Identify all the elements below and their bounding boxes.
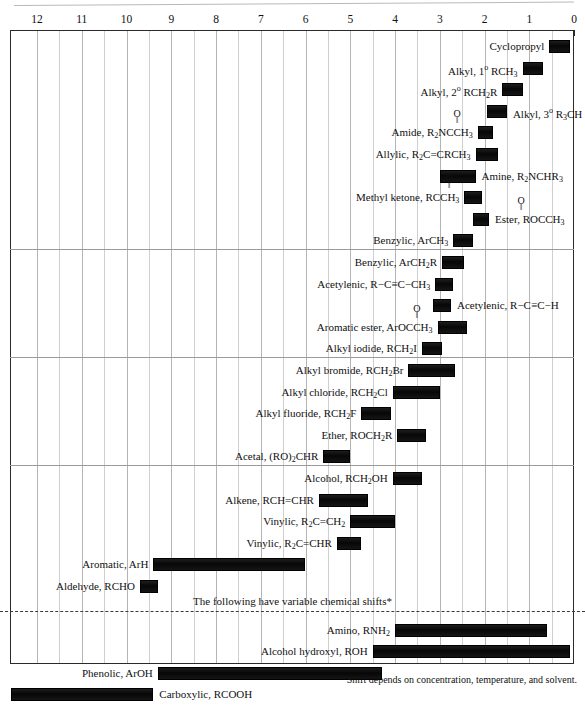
- shift-range-label: Ether, ROCH2R: [321, 427, 392, 447]
- shift-range-label: Alkyl fluoride, RCH2F: [256, 405, 357, 425]
- chart-row: Amide, R2NCCH3O‖: [0, 122, 585, 144]
- shift-range-label: Alkene, RCH=CHR: [225, 492, 314, 508]
- chart-row: Alkyl chloride, RCH2Cl: [0, 382, 585, 404]
- shift-range-bar: [153, 558, 305, 571]
- chart-row: Vinylic, R2C=CHR: [0, 533, 585, 555]
- variable-shift-note: The following have variable chemical shi…: [0, 595, 585, 607]
- chart-row: Alcohol, RCH2OH: [0, 468, 585, 490]
- shift-range-bar: [487, 105, 507, 118]
- section-divider: [10, 357, 574, 358]
- shift-range-label: Carboxylic, RCOOH: [159, 686, 252, 702]
- axis-tick-label-7: 7: [258, 12, 264, 26]
- shift-range-label: Phenolic, ArOH: [82, 665, 153, 681]
- chart-row: Benzylic, ArCH2R: [0, 252, 585, 274]
- shift-range-label: Benzylic, ArCH2R: [355, 254, 437, 274]
- axis-tick-label-4: 4: [392, 12, 398, 26]
- shift-range-bar: [337, 537, 362, 550]
- shift-range-label: Vinylic, R2C=CH2: [263, 513, 345, 533]
- shift-range-bar: [140, 580, 158, 593]
- shift-range-bar: [395, 624, 547, 637]
- chart-row: Alkene, RCH=CHR: [0, 490, 585, 512]
- shift-range-bar: [453, 234, 473, 247]
- shift-range-bar: [350, 515, 395, 528]
- shift-range-label: Ester, ROCCH3: [495, 211, 565, 231]
- chart-row: Allylic, R2C=CRCH3: [0, 144, 585, 166]
- shift-range-bar: [464, 191, 482, 204]
- chart-row: Aromatic ester, ArOCCH3O‖: [0, 317, 585, 339]
- axis-tick-label-0: 0: [571, 12, 577, 26]
- section-divider: [10, 465, 574, 466]
- axis-tick-label-10: 10: [121, 12, 133, 26]
- chart-row: Carboxylic, RCOOH: [0, 684, 585, 705]
- axis-tick-label-1: 1: [526, 12, 532, 26]
- chart-row: Alkyl, 2o RCH2R: [0, 79, 585, 101]
- shift-range-bar: [393, 386, 440, 399]
- shift-range-bar: [373, 645, 570, 658]
- section-divider: [10, 249, 574, 250]
- chart-row: Aromatic, ArH: [0, 554, 585, 576]
- chart-row: Alkyl fluoride, RCH2F: [0, 403, 585, 425]
- shift-range-bar: [397, 429, 426, 442]
- shift-range-bar: [393, 472, 422, 485]
- shift-range-label: Vinylic, R2C=CHR: [246, 535, 331, 555]
- ppm-axis-labels: 1211109876543210: [0, 12, 585, 28]
- carbonyl-oxygen-glyph: O‖: [446, 174, 453, 189]
- chart-row: Amino, RNH2: [0, 620, 585, 642]
- shift-range-bar: [442, 256, 464, 269]
- carbonyl-oxygen-glyph: O‖: [454, 109, 461, 124]
- shift-range-label: Methyl ketone, RCCH3: [356, 189, 459, 209]
- chart-row: Acetylenic, R−C≡C−CH3: [0, 274, 585, 296]
- shift-range-label: Alkyl bromide, RCH2Br: [296, 362, 404, 382]
- shift-range-bar: [408, 364, 455, 377]
- shift-range-label: Amide, R2NCCH3: [391, 124, 472, 144]
- variable-shift-divider: [0, 611, 585, 612]
- shift-range-label: Allylic, R2C=CRCH3: [376, 146, 471, 166]
- chart-row: Ester, ROCCH3O‖: [0, 209, 585, 231]
- shift-range-label: Aromatic ester, ArOCCH3: [317, 319, 433, 339]
- shift-range-bar: [433, 299, 451, 312]
- chart-row: Ether, ROCH2R: [0, 425, 585, 447]
- axis-tick-label-12: 12: [31, 12, 43, 26]
- carbonyl-oxygen-glyph: O‖: [517, 196, 524, 211]
- shift-range-bar: [323, 450, 350, 463]
- shift-range-label: Amine, R2NCHR3: [482, 168, 563, 188]
- axis-tick-label-9: 9: [168, 12, 174, 26]
- shift-range-label: Amino, RNH2: [327, 622, 390, 642]
- shift-range-label: Acetylenic, R−C≡C−CH3: [317, 276, 430, 296]
- shift-range-bar: [422, 342, 442, 355]
- shift-range-label: Acetylenic, R−C≡C−H: [457, 297, 559, 313]
- carbonyl-oxygen-glyph: O‖: [413, 304, 420, 319]
- shift-range-bar: [435, 278, 453, 291]
- shift-range-label: Cyclopropyl: [489, 38, 544, 54]
- axis-tick-label-5: 5: [347, 12, 353, 26]
- shift-range-label: Aldehyde, RCHO: [56, 578, 135, 594]
- chart-row: Alcohol hydroxyl, ROH: [0, 641, 585, 663]
- shift-range-bar: [11, 688, 153, 701]
- shift-range-label: Aromatic, ArH: [82, 556, 148, 572]
- footnote-text: *Shift depends on concentration, tempera…: [342, 674, 577, 685]
- shift-range-bar: [523, 62, 543, 75]
- chart-row: Acetylenic, R−C≡C−H: [0, 295, 585, 317]
- shift-range-bar: [319, 494, 368, 507]
- shift-range-bar: [478, 126, 494, 139]
- chart-row: Alkyl, 3o R3CH: [0, 101, 585, 123]
- page-top-rule: [14, 2, 574, 6]
- axis-tick-label-11: 11: [76, 12, 87, 26]
- shift-range-label: Alkyl chloride, RCH2Cl: [281, 384, 387, 404]
- axis-tick-label-6: 6: [303, 12, 309, 26]
- chart-row: Alkyl, 1o RCH3: [0, 58, 585, 80]
- shift-range-bar: [476, 148, 498, 161]
- shift-range-bar: [438, 321, 467, 334]
- shift-range-bar: [361, 407, 390, 420]
- chart-row: Methyl ketone, RCCH3O‖: [0, 187, 585, 209]
- axis-tick-label-3: 3: [437, 12, 443, 26]
- shift-range-bar: [549, 40, 569, 53]
- axis-tick-label-8: 8: [213, 12, 219, 26]
- shift-range-bar: [502, 83, 522, 96]
- shift-range-label: Alcohol, RCH2OH: [304, 470, 387, 490]
- chart-row: Alkyl bromide, RCH2Br: [0, 360, 585, 382]
- axis-tick-label-2: 2: [482, 12, 488, 26]
- shift-range-label: Alcohol hydroxyl, ROH: [261, 643, 368, 659]
- chart-row: Cyclopropyl: [0, 36, 585, 58]
